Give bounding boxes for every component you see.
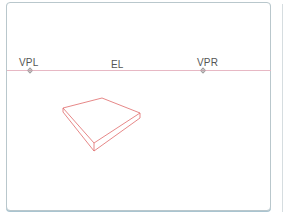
vpl-label: VPL	[19, 57, 39, 68]
vpr-label: VPR	[197, 57, 218, 68]
perspective-drawing	[0, 0, 284, 216]
horizon-label: EL	[111, 59, 124, 70]
slab-shape	[63, 98, 140, 151]
